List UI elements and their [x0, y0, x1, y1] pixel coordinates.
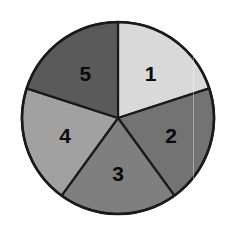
pie-slice-label-1: 1	[145, 62, 157, 85]
pie-slice-label-2: 2	[165, 124, 177, 147]
pie-slice-label-4: 4	[59, 124, 71, 147]
spinner-figure: 12345	[0, 0, 234, 232]
pie-slice-label-3: 3	[112, 162, 124, 185]
spinner-chart: 12345	[0, 0, 234, 232]
pie-slice-label-5: 5	[79, 62, 91, 85]
